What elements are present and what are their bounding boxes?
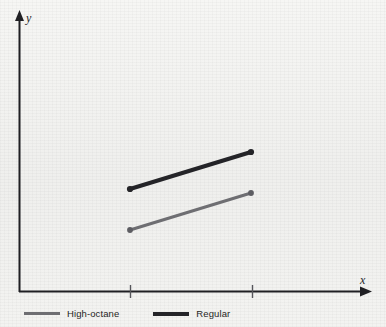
y-axis-arrowhead xyxy=(15,10,24,21)
legend-swatch-icon-regular xyxy=(153,312,189,316)
chart-legend: High-octane Regular xyxy=(0,300,386,327)
plot-area: y x xyxy=(0,0,386,300)
series-segment-high-octane xyxy=(130,193,251,230)
legend-item-regular[interactable]: Regular xyxy=(153,308,230,319)
series-segment-regular xyxy=(130,152,251,189)
data-point-regular-start xyxy=(127,186,133,192)
x-axis-arrowhead xyxy=(360,287,372,297)
data-point-regular-end xyxy=(248,149,254,155)
x-axis-label: x xyxy=(360,274,365,286)
y-axis xyxy=(15,10,24,292)
data-point-high-octane-start xyxy=(127,227,133,233)
y-axis-label: y xyxy=(26,12,31,24)
chart-figure: y x High-octane Regular xyxy=(0,0,386,327)
legend-label-regular: Regular xyxy=(196,308,230,319)
x-axis xyxy=(19,287,372,297)
legend-item-high-octane[interactable]: High-octane xyxy=(24,308,119,319)
chart-canvas xyxy=(0,0,386,300)
series-line-regular xyxy=(127,149,254,192)
series-line-high-octane xyxy=(127,190,254,233)
legend-swatch-icon-high-octane xyxy=(24,312,60,315)
legend-label-high-octane: High-octane xyxy=(67,308,119,319)
data-point-high-octane-end xyxy=(248,190,254,196)
